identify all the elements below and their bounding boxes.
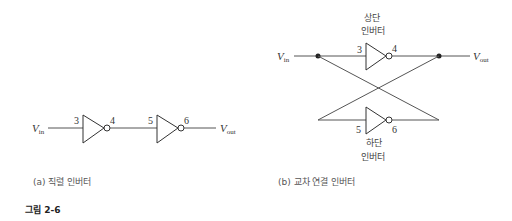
node-3-b: 3 bbox=[357, 44, 362, 55]
inverter-1-icon bbox=[83, 115, 104, 143]
top-inverter-label-2: 인버터 bbox=[361, 26, 385, 36]
node-4-a: 4 bbox=[110, 115, 115, 126]
caption-a: (a) 직렬 인버터 bbox=[33, 177, 91, 187]
bottom-inverter-icon bbox=[366, 107, 386, 134]
figure-label: 그림 2-6 bbox=[25, 204, 60, 215]
vout-label-b: Vout bbox=[473, 50, 489, 64]
node-6-a: 6 bbox=[184, 115, 189, 126]
vin-label-b: Vin bbox=[277, 50, 290, 64]
node-5-b: 5 bbox=[356, 124, 361, 135]
panel-b-cross-coupled bbox=[294, 43, 470, 134]
bottom-inverter-label-2: 인버터 bbox=[361, 152, 385, 162]
node-3-a: 3 bbox=[74, 115, 79, 126]
inverter-diagram: Vin 3 4 5 6 Vout (a) 직렬 인버터 상단 인버터 Vin 3… bbox=[0, 0, 512, 221]
node-5-a: 5 bbox=[148, 115, 153, 126]
caption-b: (b) 교차 연결 인버터 bbox=[278, 176, 355, 187]
bottom-inverter-bubble bbox=[386, 117, 392, 123]
vin-label-a: Vin bbox=[32, 122, 45, 136]
top-inverter-icon bbox=[366, 43, 386, 70]
node-4-b: 4 bbox=[392, 43, 397, 54]
node-6-b: 6 bbox=[392, 124, 397, 135]
bottom-inverter-label-1: 하단 bbox=[366, 138, 382, 148]
vout-label-a: Vout bbox=[220, 122, 236, 136]
inverter-2-icon bbox=[157, 115, 178, 143]
top-inverter-label-1: 상단 bbox=[364, 13, 380, 23]
